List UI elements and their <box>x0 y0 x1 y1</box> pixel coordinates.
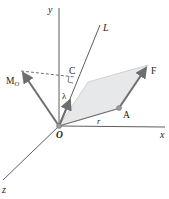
x-axis-label: x <box>159 129 165 140</box>
line-L-label: L <box>102 22 109 33</box>
moment-about-axis-diagram: y x z L MO C λ F A r O <box>0 0 169 199</box>
r-label: r <box>97 116 101 126</box>
projection-dashed-line <box>21 71 75 77</box>
z-axis-line <box>3 126 59 180</box>
force-label: F <box>151 66 156 76</box>
point-A-label: A <box>123 110 130 120</box>
point-A-dot <box>117 106 122 111</box>
z-axis-label: z <box>1 184 6 195</box>
right-angle-marker <box>68 76 73 83</box>
moment-label: MO <box>6 76 19 87</box>
y-axis-label: y <box>47 4 53 15</box>
origin-dot <box>57 124 62 129</box>
x-axis-line <box>59 126 165 127</box>
moment-vector <box>23 73 59 126</box>
point-C-label: C <box>69 66 75 76</box>
moment-subscript: O <box>14 80 19 87</box>
origin-label: O <box>56 130 63 140</box>
lambda-label: λ <box>62 91 67 101</box>
